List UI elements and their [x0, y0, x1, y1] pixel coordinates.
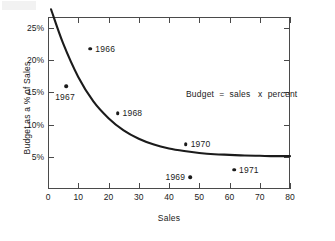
x-axis-tick-label: 70: [255, 193, 264, 202]
x-axis-tick-label: 20: [104, 193, 113, 202]
x-axis-tick: [230, 17, 231, 23]
y-axis-tick: [48, 125, 54, 126]
x-axis-tick: [169, 17, 170, 23]
x-axis-tick-label: 80: [285, 193, 294, 202]
x-axis-tick: [199, 183, 200, 189]
x-axis-tick: [139, 17, 140, 23]
x-axis-tick: [290, 17, 291, 23]
y-axis-tick: [284, 60, 290, 61]
data-point-1971[interactable]: [232, 168, 236, 172]
data-point-label-1971: 1971: [239, 165, 259, 175]
chart-figure: 010203040506070805%10%15%20%25% 19661967…: [0, 0, 335, 241]
y-axis-tick-label: 25%: [18, 24, 44, 33]
x-axis-tick: [78, 183, 79, 189]
data-point-label-1969: 1969: [165, 172, 185, 182]
data-point-1966[interactable]: [89, 47, 93, 51]
x-axis-tick-label: 60: [225, 193, 234, 202]
y-axis-title: Budget as a % of Sales: [22, 33, 32, 183]
y-axis-tick: [48, 92, 54, 93]
x-axis-tick-label: 10: [74, 193, 83, 202]
data-point-1969[interactable]: [188, 176, 192, 180]
data-point-label-1967: 1967: [55, 92, 75, 102]
x-axis-title: Sales: [158, 213, 180, 223]
x-axis-tick: [260, 183, 261, 189]
y-axis-tick: [284, 125, 290, 126]
plot-area-frame: [48, 17, 290, 189]
y-axis-tick: [284, 157, 290, 158]
y-axis-tick: [284, 28, 290, 29]
formula-annotation: Budget = sales x percent: [186, 89, 297, 99]
x-axis-tick: [48, 17, 49, 23]
x-axis-tick: [230, 183, 231, 189]
data-point-1970[interactable]: [184, 142, 188, 146]
y-axis-tick: [48, 157, 54, 158]
x-axis-tick-label: 30: [134, 193, 143, 202]
x-axis-tick: [78, 17, 79, 23]
x-axis-tick: [169, 183, 170, 189]
y-axis-tick: [48, 60, 54, 61]
scan-artifact: [2, 1, 36, 10]
data-point-label-1968: 1968: [123, 108, 143, 118]
data-point-label-1966: 1966: [95, 44, 115, 54]
x-axis-tick-label: 50: [195, 193, 204, 202]
x-axis-tick-label: 40: [164, 193, 173, 202]
x-axis-tick: [199, 17, 200, 23]
x-axis-tick: [109, 183, 110, 189]
x-axis-tick: [290, 183, 291, 189]
x-axis-tick-label: 0: [46, 193, 51, 202]
data-point-1967[interactable]: [64, 84, 68, 88]
data-point-1968[interactable]: [116, 111, 120, 115]
x-axis-tick: [48, 183, 49, 189]
data-point-label-1970: 1970: [191, 139, 211, 149]
y-axis-tick: [48, 28, 54, 29]
x-axis-tick: [260, 17, 261, 23]
x-axis-tick: [139, 183, 140, 189]
x-axis-tick: [109, 17, 110, 23]
